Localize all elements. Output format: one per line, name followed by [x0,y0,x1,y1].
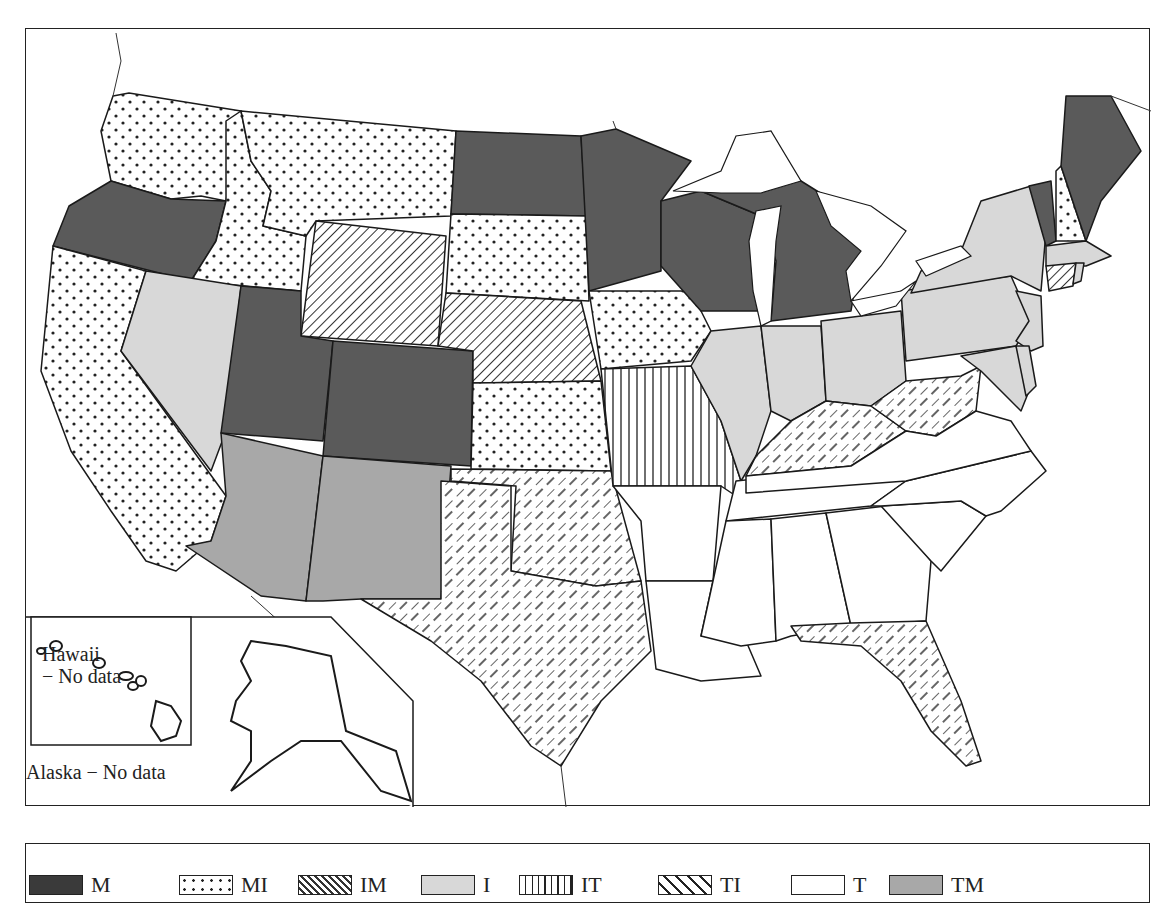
state-connecticut [1046,263,1076,291]
state-south-dakota [446,214,589,301]
state-new-york [911,186,1046,293]
legend-item-ti: TI [658,875,741,895]
state-north-dakota [451,131,586,216]
swatch-solid-medium [889,875,943,895]
legend-item-it: IT [519,875,602,895]
swatch-solid-light [421,875,475,895]
legend-label: IM [360,875,387,895]
legend-label: M [91,875,111,895]
state-florida [791,621,981,766]
legend: M MI IM I IT TI T TM [25,843,1150,903]
hawaii-label-line1: Hawaii [42,643,121,665]
legend-label: TI [720,875,741,895]
alaska-label: Alaska − No data [26,761,166,783]
swatch-vertical-lines [519,875,573,895]
legend-item-i: I [421,875,490,895]
legend-item-mi: MI [179,875,268,895]
lake-superior [673,131,801,193]
legend-label: TM [951,875,984,895]
hawaii-label: Hawaii − No data [42,643,121,687]
state-kansas [471,381,611,471]
swatch-dots [179,875,233,895]
legend-label: IT [581,875,602,895]
legend-item-t: T [791,875,866,895]
legend-label: I [483,875,490,895]
map-frame: Hawaii − No data Alaska − No data [25,28,1150,806]
us-states-map [26,29,1151,807]
swatch-solid-dark [29,875,83,895]
state-wyoming [301,221,446,346]
legend-item-tm: TM [889,875,984,895]
legend-item-m: M [29,875,111,895]
swatch-blank [791,875,845,895]
state-colorado [323,341,473,466]
legend-label: MI [241,875,268,895]
legend-label: T [853,875,866,895]
legend-item-im: IM [298,875,387,895]
hawaii-label-line2: − No data [42,665,121,687]
state-montana [241,111,456,236]
swatch-diagonal-dense [298,875,352,895]
swatch-diagonal-dashed [658,875,712,895]
state-new-mexico [306,456,451,601]
